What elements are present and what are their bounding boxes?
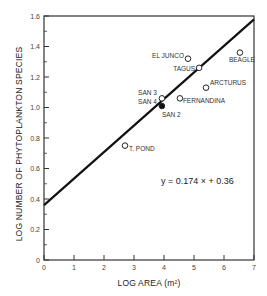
data-point (196, 65, 202, 71)
y-tick-label: 0.6 (30, 165, 40, 172)
x-tick-label: 5 (192, 264, 196, 271)
y-tick-label: 0 (36, 257, 40, 264)
y-tick-label: 1.2 (30, 74, 40, 81)
x-tick-label: 0 (42, 264, 46, 271)
point-label: EL JUNCO (152, 52, 184, 59)
x-axis-title: LOG AREA (m²) (117, 278, 180, 288)
regression-equation: y = 0.174 × + 0.36 (161, 176, 234, 186)
data-point (159, 103, 165, 109)
x-tick-label: 2 (102, 264, 106, 271)
point-label: ARCTURUS (210, 79, 247, 86)
point-label: TAGUS (173, 65, 196, 72)
point-label: FERNANDINA (183, 97, 226, 104)
data-point (185, 56, 191, 62)
point-label: SAN 4 (138, 98, 157, 105)
point-label: SAN 3 (138, 89, 157, 96)
point-label: T. POND (129, 145, 155, 152)
data-point (159, 96, 165, 102)
data-point (203, 85, 209, 91)
y-tick-label: 0.8 (30, 135, 40, 142)
x-tick-label: 4 (162, 264, 166, 271)
y-axis-title: LOG NUMBER OF PHYTOPLANKTON SPECIES (14, 47, 24, 242)
x-tick-label: 7 (252, 264, 256, 271)
data-point (237, 50, 243, 56)
data-point (177, 96, 183, 102)
point-label: SAN 2 (162, 111, 181, 118)
x-tick-label: 1 (72, 264, 76, 271)
y-tick-label: 0.2 (30, 226, 40, 233)
point-label: BEAGLE (229, 56, 256, 63)
x-tick-label: 3 (132, 264, 136, 271)
y-tick-label: 1.4 (30, 43, 40, 50)
y-axis: 00.20.40.60.81.01.21.41.6 (30, 13, 49, 264)
y-tick-label: 0.4 (30, 196, 40, 203)
x-tick-label: 6 (222, 264, 226, 271)
plot-frame (44, 16, 254, 260)
y-tick-label: 1.6 (30, 13, 40, 20)
x-axis: 01234567 (42, 255, 256, 271)
data-points: T. PONDSAN 3SAN 4SAN 2FERNANDINAARCTURUS… (122, 50, 255, 152)
data-point (122, 143, 128, 149)
scatter-chart: 0123456700.20.40.60.81.01.21.41.6LOG ARE… (0, 0, 267, 296)
y-tick-label: 1.0 (30, 104, 40, 111)
